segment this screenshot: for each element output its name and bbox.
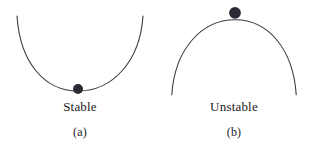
concave-down-curve [172, 20, 296, 95]
physics-equilibrium-figure: Stable (a) Unstable (b) [0, 0, 313, 150]
panel-unstable: Unstable (b) [155, 0, 313, 150]
caption-stable: Stable [0, 100, 160, 113]
ball-marker [73, 84, 83, 94]
panel-tag-b: (b) [155, 126, 313, 138]
panel-tag-a: (a) [0, 126, 160, 138]
caption-unstable: Unstable [155, 100, 313, 113]
concave-up-curve [17, 16, 143, 91]
panel-stable: Stable (a) [0, 0, 160, 150]
ball-marker [229, 7, 241, 19]
